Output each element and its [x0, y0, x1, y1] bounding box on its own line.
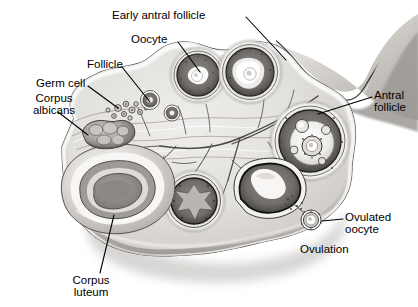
early-antral-follicle — [171, 48, 225, 102]
label-antral-follicle: Antral follicle — [374, 89, 406, 114]
label-follicle: Follicle — [87, 58, 123, 70]
corpus-luteum — [61, 144, 175, 234]
label-corpus-luteum: Corpus luteum — [55, 274, 127, 299]
rupturing-follicle — [234, 158, 306, 218]
label-early-antral-follicle: Early antral follicle — [112, 9, 205, 21]
figure-canvas: Early antral follicle Oocyte Follicle Ge… — [0, 0, 418, 307]
ovary-diagram-artwork — [0, 0, 418, 307]
label-corpus-albicans: Corpus albicans — [14, 92, 94, 117]
label-ovulation: Ovulation — [300, 243, 349, 255]
label-germ-cell: Germ cell — [36, 77, 85, 89]
label-ovulated-oocyte: Ovulated oocyte — [345, 211, 391, 236]
primary-follicle-2 — [164, 105, 180, 121]
early-antral-follicle-2 — [219, 41, 281, 103]
ovulated-oocyte — [301, 210, 322, 230]
label-oocyte: Oocyte — [131, 33, 167, 45]
